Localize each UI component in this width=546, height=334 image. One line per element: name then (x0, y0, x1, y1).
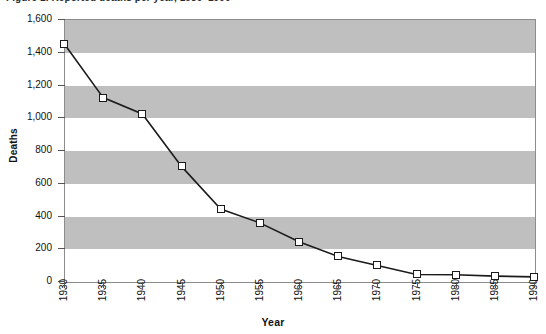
data-point-marker (60, 40, 68, 48)
data-point-marker (334, 252, 342, 260)
data-point-marker (99, 94, 107, 102)
data-point-marker (491, 272, 499, 280)
data-point-marker (138, 110, 146, 118)
data-point-marker (256, 219, 264, 227)
data-point-marker (217, 205, 225, 213)
data-point-marker (373, 261, 381, 269)
data-point-marker (178, 162, 186, 170)
data-point-marker (530, 273, 538, 281)
data-point-marker (413, 270, 421, 278)
figure-container: Figure 1. Reported deaths per year, 1930… (0, 0, 546, 334)
data-line-series (0, 0, 546, 334)
data-point-marker (295, 238, 303, 246)
data-point-marker (452, 271, 460, 279)
